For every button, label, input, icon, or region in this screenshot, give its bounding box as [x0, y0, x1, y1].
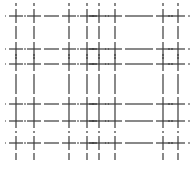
dashed-grid [0, 0, 196, 176]
background [0, 0, 196, 176]
